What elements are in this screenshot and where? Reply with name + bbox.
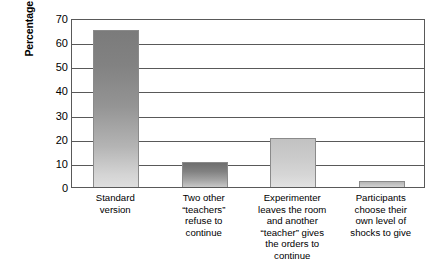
bar	[93, 30, 139, 187]
x-category-label-line: “teacher” gives	[250, 227, 335, 239]
x-category-label: Two other“teachers”refuse tocontinue	[162, 192, 247, 238]
x-category-label-line: and another	[250, 215, 335, 227]
x-category-label-line: leaves the room	[250, 204, 335, 216]
y-tick-label: 0	[40, 183, 68, 194]
x-category-label-line: refuse to	[162, 215, 247, 227]
x-category-label: Experimenterleaves the roomand another“t…	[250, 192, 335, 261]
x-category-label-line: continue	[162, 227, 247, 239]
y-tick-label: 10	[40, 158, 68, 169]
x-category-label-line: Standard	[73, 192, 158, 204]
x-category-label-line: Participants	[339, 192, 424, 204]
x-axis-category-labels: StandardversionTwo other“teachers”refuse…	[71, 192, 425, 272]
y-axis-tick-labels: 706050403020100	[40, 0, 68, 274]
x-category-label-line: own level of	[339, 215, 424, 227]
x-category-label-line: continue	[250, 250, 335, 262]
bars-layer	[72, 20, 424, 187]
x-category-label-line: Experimenter	[250, 192, 335, 204]
bar	[182, 162, 228, 187]
x-category-label: Participantschoose theirown level ofshoc…	[339, 192, 424, 238]
x-category-label: Standardversion	[73, 192, 158, 215]
y-tick-label: 20	[40, 134, 68, 145]
y-tick-label: 70	[40, 14, 68, 25]
x-category-label-line: “teachers”	[162, 204, 247, 216]
x-category-label-line: Two other	[162, 192, 247, 204]
y-tick-label: 60	[40, 38, 68, 49]
x-category-label-line: the orders to	[250, 238, 335, 250]
y-tick-label: 40	[40, 86, 68, 97]
bar	[270, 138, 316, 187]
x-category-label-line: version	[73, 204, 158, 216]
x-category-label-line: choose their	[339, 204, 424, 216]
y-tick-label: 50	[40, 62, 68, 73]
bar	[359, 181, 405, 187]
plot-area	[71, 19, 425, 188]
bar-chart: Percentage giving the highest level of s…	[0, 0, 443, 274]
x-category-label-line: shocks to give	[339, 227, 424, 239]
y-tick-label: 30	[40, 110, 68, 121]
